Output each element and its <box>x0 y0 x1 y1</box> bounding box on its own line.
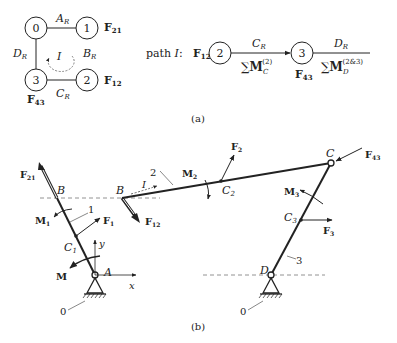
link-1-label: 1 <box>88 204 94 215</box>
force-F1-label: F1 <box>103 215 114 227</box>
joint-C <box>328 160 334 166</box>
point-C1-label: C1 <box>64 241 77 255</box>
force-F2-label: F2 <box>231 141 242 153</box>
node-2-label: 2 <box>84 74 91 87</box>
caption-b: (b) <box>191 321 205 332</box>
force-F12-arrow-inner <box>123 199 134 214</box>
figure-a: 0 1 3 2 AR BR CR DR I F21 F12 F43 path I… <box>12 12 370 124</box>
point-C3-label: C3 <box>284 211 297 225</box>
point-A-label: A <box>103 266 112 279</box>
force-F21-arrowhead <box>38 162 45 170</box>
link-3-label: 3 <box>296 255 302 266</box>
ground-support-A <box>83 278 106 298</box>
four-bar-linkage-figure: 0 1 3 2 AR BR CR DR I F21 F12 F43 path I… <box>0 0 397 343</box>
path-node-3-label: 3 <box>299 47 306 60</box>
edge-B-label: BR <box>82 47 97 61</box>
path-node-2-label: 2 <box>217 47 224 60</box>
point-B-link1-label: B <box>56 184 65 197</box>
link-2-label: 2 <box>150 167 156 178</box>
force-F43-label: F43 <box>365 149 380 161</box>
node-0-label: 0 <box>33 22 40 35</box>
point-B-link2-label: B <box>115 184 124 197</box>
force-F21-label: F21 <box>104 21 122 35</box>
ground-D-label: 0 <box>240 306 246 317</box>
path-segment-D-label: DR <box>333 37 349 51</box>
point-C-label: C <box>326 147 335 160</box>
path-segment-C-moment-sum: ∑MC(2) <box>241 58 272 76</box>
path-segment-C-label: CR <box>252 37 266 51</box>
force-F21-label-b: F21 <box>20 169 35 181</box>
y-axis-label: y <box>98 238 105 249</box>
edge-A-label: AR <box>55 12 70 26</box>
link-3-leader <box>287 256 296 259</box>
edge-D-label: DR <box>12 47 28 61</box>
ground-A-label: 0 <box>60 306 66 317</box>
loop-I-label: I <box>56 50 62 63</box>
x-axis-label: x <box>129 280 135 291</box>
ground-support-D <box>259 278 282 298</box>
force-F12-label-b: F12 <box>145 216 160 228</box>
force-F12-label: F12 <box>104 74 122 88</box>
node-3-label: 3 <box>33 74 40 87</box>
path-node-3-force-label: F43 <box>295 68 313 82</box>
force-F1-arrow <box>76 218 100 236</box>
point-D-label: D <box>259 264 269 277</box>
edge-C-label: CR <box>56 87 70 101</box>
moment-M2-label: M2 <box>182 168 197 180</box>
force-F43-label: F43 <box>27 93 45 107</box>
path-segment-D-moment-sum: ∑MD(2&3) <box>321 58 363 76</box>
link-2-leader <box>160 171 173 185</box>
point-C2-label: C2 <box>222 184 235 198</box>
ground-D-leader <box>248 301 263 310</box>
moment-M3-arrow <box>300 190 323 204</box>
ground-A-leader <box>68 301 85 310</box>
moment-M-arrow <box>70 256 100 268</box>
force-F2-arrow <box>221 155 234 181</box>
moment-M-label: M <box>56 271 67 282</box>
loop-I-label-b: I <box>141 179 147 190</box>
force-F43-arrow <box>336 148 362 161</box>
moment-M3-label: M3 <box>284 186 299 198</box>
force-F3-label: F3 <box>323 225 334 237</box>
figure-b: 0 0 x y A B B C D C1 C2 C3 1 2 3 I F21 F… <box>20 141 380 332</box>
caption-a: (a) <box>191 113 205 124</box>
link-1-leader <box>70 213 88 222</box>
force-F21-arrow-inner <box>42 168 57 198</box>
moment-M1-label: M1 <box>35 215 50 227</box>
path-start-force-label: F12 <box>193 47 211 61</box>
path-I-title: path I: <box>146 47 183 60</box>
node-1-label: 1 <box>84 22 91 35</box>
